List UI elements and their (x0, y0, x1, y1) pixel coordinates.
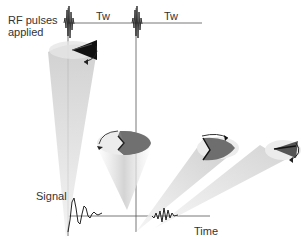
tw-label-2: Tw (164, 10, 178, 22)
spin-cone-2 (96, 131, 152, 210)
rf-pulse-2 (132, 6, 142, 38)
tw-label-1: Tw (96, 10, 110, 22)
time-axis-label: Time (194, 225, 218, 237)
spin-cone-1 (48, 40, 97, 238)
rf-pulses-label: RF pulses applied (8, 14, 58, 38)
rf-pulses-label-line1: RF pulses (8, 14, 58, 26)
fid-signal-curve (68, 198, 102, 232)
signal-label: Signal (36, 190, 67, 202)
rf-pulse-1 (64, 6, 74, 38)
rf-pulses-label-line2: applied (8, 26, 58, 38)
